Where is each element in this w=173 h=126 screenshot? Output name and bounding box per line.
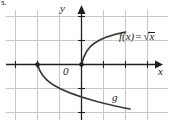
radical-expression: √x	[142, 31, 154, 42]
problem-number: 5.	[1, 0, 6, 7]
x-axis	[6, 61, 163, 69]
radical-vinculum	[148, 32, 155, 33]
x-axis-label: x	[158, 66, 163, 77]
origin-label: 0	[63, 66, 69, 77]
point-g-x-intercept	[35, 62, 40, 67]
y-axis-label: y	[60, 3, 65, 14]
point-origin-marker	[79, 62, 84, 67]
math-figure: 5. y x 0 f(x)=√x g	[0, 0, 173, 126]
curve-label-f-equals: =	[134, 30, 142, 42]
curve-label-f: f(x)=√x	[119, 31, 154, 42]
curve-label-f-function: f(x)	[119, 30, 134, 42]
curve-label-g: g	[112, 92, 118, 103]
coordinate-plane	[0, 0, 173, 126]
